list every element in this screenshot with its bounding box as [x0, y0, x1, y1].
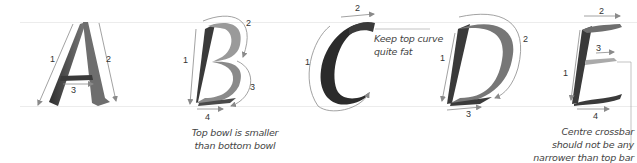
stroke-2-arrow-icon — [341, 14, 374, 17]
letter-c-body — [321, 23, 372, 105]
letter-c — [309, 14, 430, 111]
letter-e-centre-bar — [585, 58, 617, 65]
stroke-number: 3 — [596, 44, 601, 53]
letter-a-crossbar — [60, 75, 93, 81]
letter-b — [190, 16, 251, 109]
letter-a-left-stroke — [49, 22, 86, 106]
stroke-3-arrow-icon — [447, 107, 481, 110]
letter-e-bottom-bar — [574, 94, 622, 106]
stroke-number: 1 — [50, 55, 55, 64]
stroke-number: 2 — [355, 4, 360, 13]
stroke-1-arrow-icon — [190, 29, 196, 104]
letter-b-stem — [196, 24, 215, 103]
stroke-number: 1 — [183, 56, 188, 65]
stroke-number: 2 — [246, 19, 251, 28]
letter-e-top-bar — [582, 24, 622, 33]
stroke-number: 2 — [599, 7, 604, 16]
stroke-number: 1 — [440, 54, 445, 63]
diagram-canvas: 1 2 3 1 2 3 4 Top bowl is smaller than b… — [0, 0, 637, 163]
stroke-number: 3 — [71, 86, 76, 95]
stroke-number: 3 — [466, 110, 471, 119]
stroke-number: 2 — [106, 55, 111, 64]
stroke-number: 4 — [593, 112, 598, 121]
stroke-number: 1 — [305, 58, 310, 67]
letter-a — [38, 22, 116, 106]
letter-e-stem — [572, 26, 592, 104]
letter-e-note: Centre crossbar should not be any narrow… — [512, 125, 634, 163]
letter-d — [442, 14, 521, 110]
letter-a-right-stroke — [83, 22, 110, 106]
stroke-number: 3 — [250, 83, 255, 92]
stroke-number: 1 — [563, 69, 568, 78]
stroke-number: 4 — [205, 113, 210, 122]
letter-b-note: Top bowl is smaller than bottom bowl — [180, 126, 290, 152]
stroke-number: 2 — [523, 35, 528, 44]
